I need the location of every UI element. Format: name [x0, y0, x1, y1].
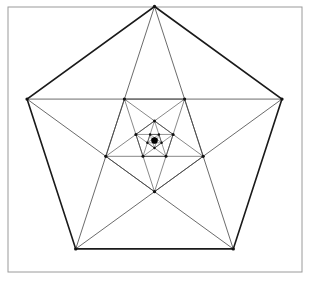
- vertex-dot-l3-v4: [160, 142, 162, 144]
- vertex-dot-l0-v2: [232, 247, 235, 250]
- center-dot: [151, 137, 157, 143]
- pentagram-figure: [0, 0, 309, 282]
- vertex-dot-l3-v3: [158, 133, 160, 135]
- vertex-dot-l2-v4: [134, 133, 137, 136]
- vertex-dot-l0-v0: [153, 5, 156, 8]
- vertex-dot-l3-v2: [149, 133, 151, 135]
- vertex-dot-l3-v1: [146, 142, 148, 144]
- vertex-dot-l2-v3: [141, 155, 144, 158]
- vertex-dot-l1-v2: [123, 97, 126, 100]
- vertex-dot-l0-v3: [74, 247, 77, 250]
- vertex-dot-l3-v0: [153, 147, 155, 149]
- figure-root: Recursive pentagram construction Nested …: [0, 0, 309, 282]
- vertex-dot-l1-v3: [183, 97, 186, 100]
- vertex-dot-l1-v4: [202, 155, 205, 158]
- vertex-dot-l2-v2: [165, 155, 168, 158]
- vertex-dot-l1-v0: [153, 190, 156, 193]
- vertex-dot-l0-v1: [280, 97, 283, 100]
- vertex-dot-l0-v4: [25, 97, 28, 100]
- vertex-dot-l2-v1: [172, 133, 175, 136]
- vertex-dot-l1-v1: [104, 155, 107, 158]
- vertex-dot-l2-v0: [153, 119, 156, 122]
